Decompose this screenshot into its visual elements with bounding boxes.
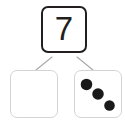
connector-line-right	[77, 57, 93, 70]
item-label: )	[0, 0, 11, 18]
dice-pip	[104, 100, 115, 111]
connector-line-left	[36, 57, 52, 70]
dice-pip	[81, 79, 93, 91]
whole-number-box[interactable]: 7	[41, 6, 87, 53]
part-box-dice[interactable]	[74, 70, 122, 118]
number-bond-worksheet-item: ) 7	[0, 0, 125, 120]
dice-face-three-icon	[75, 71, 121, 117]
dice-pip	[92, 88, 104, 100]
part-box-empty[interactable]	[10, 70, 58, 118]
whole-number-value: 7	[43, 8, 85, 51]
